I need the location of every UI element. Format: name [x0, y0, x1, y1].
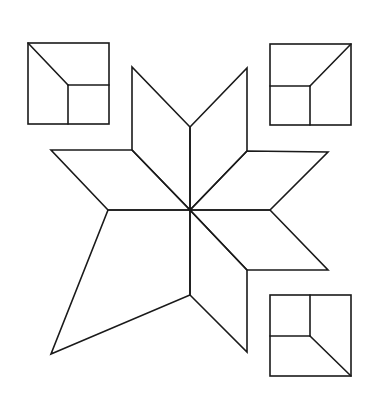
rhombus-bottom-right — [190, 210, 247, 352]
square-top-left — [28, 43, 109, 124]
rhombus-left-upper — [51, 150, 190, 210]
rhombus-right-upper — [190, 151, 328, 210]
square-diagonal — [310, 336, 351, 376]
rhombus-top-right — [190, 68, 247, 210]
square-top-right — [270, 44, 351, 125]
rhombus-right-lower — [190, 210, 328, 270]
rhombus-top-left — [132, 67, 190, 210]
square-diagonal — [310, 44, 351, 86]
quilt-block-diagram — [0, 0, 376, 404]
diagram-canvas — [0, 0, 376, 404]
square-diagonal — [28, 43, 68, 85]
square-bottom-right — [270, 295, 351, 376]
star-group — [51, 67, 328, 354]
quadrilateral-bottom-left — [51, 210, 190, 354]
